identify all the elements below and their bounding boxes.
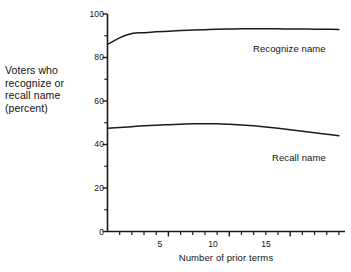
- series-lines: [108, 29, 339, 136]
- chart-figure: Voters who recognize or recall name (per…: [0, 0, 351, 272]
- plot-area: [0, 0, 351, 272]
- series-line-recognize-name: [108, 29, 339, 45]
- axes-group: [107, 14, 345, 232]
- series-line-recall-name: [108, 124, 339, 136]
